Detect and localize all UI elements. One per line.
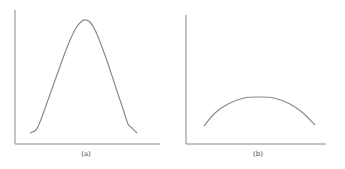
panel-a-bell-curve: [30, 20, 137, 133]
panel-a-caption: (a): [81, 150, 91, 158]
figure-canvas: [0, 0, 345, 169]
panel-b-flat-arc: [204, 97, 315, 126]
panel-a: [15, 10, 160, 144]
panel-b: [186, 15, 326, 144]
panel-b-caption: (b): [253, 150, 263, 158]
